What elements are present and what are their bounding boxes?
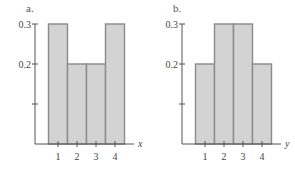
x-tick-label: 2 [222,151,227,162]
histogram-bar [87,64,106,144]
y-tick-label: 0.2 [166,59,179,70]
x-tick-label: 3 [241,151,246,162]
x-tick-label: 2 [75,151,80,162]
chart-b: b.0.20.31234y [166,2,291,162]
panel-label: b. [173,2,182,14]
x-tick-label: 4 [260,151,265,162]
histogram-bar [253,64,272,144]
histogram-bar [106,24,125,144]
histogram-bar [234,24,253,144]
histogram-bar [215,24,234,144]
chart-a: a.0.20.31234x [19,2,144,162]
y-tick-label: 0.3 [19,19,32,30]
x-tick-label: 1 [56,151,61,162]
histogram-figure: a.0.20.31234xb.0.20.31234y [0,0,295,178]
x-axis-label: x [137,138,143,149]
x-tick-label: 3 [94,151,99,162]
y-tick-label: 0.2 [19,59,32,70]
histogram-bar [49,24,68,144]
x-tick-label: 4 [113,151,118,162]
x-tick-label: 1 [203,151,208,162]
y-tick-label: 0.3 [166,19,179,30]
histogram-bar [196,64,215,144]
x-axis-label: y [284,138,290,149]
panel-label: a. [26,2,34,14]
histogram-bar [68,64,87,144]
